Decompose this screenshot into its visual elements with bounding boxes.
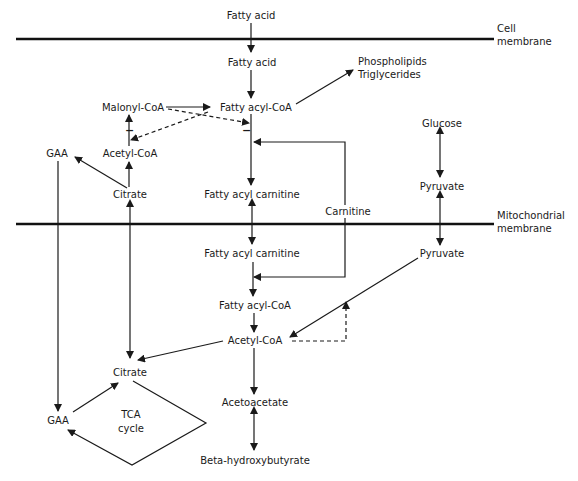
cell-membrane-label: membrane: [497, 36, 552, 47]
arrow-acyl-coa-to-lipids: [296, 70, 353, 104]
node-citrate-mito: Citrate: [113, 367, 147, 378]
node-citrate-cytosol: Citrate: [113, 189, 147, 200]
node-fatty-acid-extracellular: Fatty acid: [227, 10, 276, 21]
inhibition-mark: −: [125, 124, 134, 137]
node-fatty-acyl-coa-mito: Fatty acyl-CoA: [219, 300, 291, 311]
node-fatty-acyl-carnitine-mito: Fatty acyl carnitine: [204, 248, 299, 259]
node-tca-cycle: cycle: [118, 423, 144, 434]
node-pyruvate-cytosol: Pyruvate: [420, 181, 465, 192]
node-beta-hydroxybutyrate: Beta-hydroxybutyrate: [200, 455, 310, 466]
cell-membrane-label: Cell: [497, 23, 516, 34]
node-fatty-acid-cytosol: Fatty acid: [228, 57, 277, 68]
node-gaa-top: GAA: [46, 148, 68, 159]
arrow-pyruvate-to-acetyl: [290, 258, 418, 337]
node-carnitine: Carnitine: [325, 206, 370, 217]
node-acetyl-coa-mito: Acetyl-CoA: [228, 335, 283, 346]
node-fatty-acyl-carnitine-cytosol: Fatty acyl carnitine: [204, 189, 299, 200]
tca-gaa-to-citrate: [73, 383, 118, 412]
mitochondrial-membrane-label: Mitochondrial: [497, 210, 565, 221]
arrow-acetyl-to-citrate: [138, 341, 223, 360]
node-triglycerides: Triglycerides: [357, 69, 421, 80]
node-tca-cycle: TCA: [120, 409, 141, 420]
mitochondrial-membrane-label: membrane: [497, 223, 552, 234]
node-glucose: Glucose: [422, 118, 462, 129]
node-acetyl-coa-cytosol: Acetyl-CoA: [103, 148, 158, 159]
node-phospholipids: Phospholipids: [358, 56, 427, 67]
node-gaa-bottom: GAA: [47, 415, 69, 426]
node-fatty-acyl-coa-cytosol: Fatty acyl-CoA: [220, 102, 292, 113]
node-pyruvate-mito: Pyruvate: [420, 248, 465, 259]
node-malonyl-coa: Malonyl-CoA: [102, 102, 164, 113]
diagram-canvas: Cell membrane Mitochondrial membrane Fat…: [0, 0, 578, 481]
dashed-acyl-coa-inhibits-acc: [131, 112, 208, 140]
inhibition-mark: −: [242, 124, 251, 137]
node-acetoacetate: Acetoacetate: [222, 397, 288, 408]
arrow-citrate-to-gaa: [75, 157, 127, 188]
